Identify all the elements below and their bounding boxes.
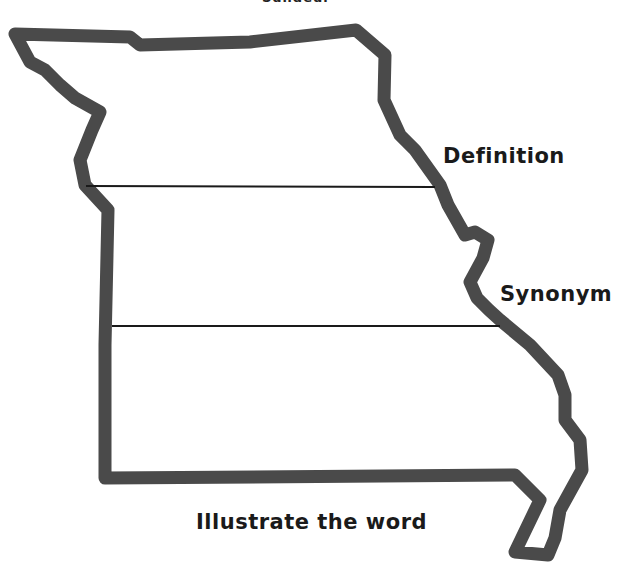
definition-divider — [86, 186, 435, 187]
illustrate-label: Illustrate the word — [196, 510, 427, 534]
state-border — [15, 30, 582, 555]
definition-label: Definition — [443, 144, 565, 168]
synonym-label: Synonym — [500, 282, 612, 306]
